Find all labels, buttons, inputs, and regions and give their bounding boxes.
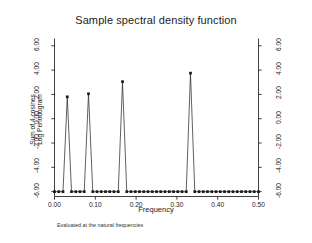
- y-tick-label-right: -6.00: [274, 175, 281, 205]
- chart-note: Evaluated at the natural frequencies: [57, 222, 143, 228]
- x-tick-label: 0.10: [80, 201, 110, 208]
- y-tick-label-left: -6.00: [33, 175, 40, 205]
- x-tick-label: 0.20: [121, 201, 151, 208]
- x-tick-label: 0.50: [244, 201, 274, 208]
- x-tick-label: 0.40: [203, 201, 233, 208]
- chart-figure: Sample spectral density function Sum of …: [0, 0, 312, 243]
- x-tick-label: 0.00: [40, 201, 70, 208]
- x-tick-label: 0.30: [162, 201, 192, 208]
